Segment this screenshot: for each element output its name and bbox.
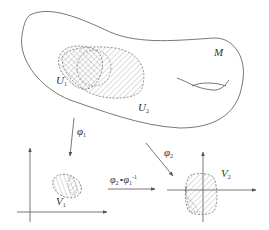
transition-inverse-sup: -1: [132, 174, 137, 180]
label-v2: V2: [221, 168, 231, 180]
label-phi2: φ2: [164, 147, 173, 159]
label-u1-base: U: [56, 74, 64, 86]
label-phi1: φ1: [77, 126, 86, 138]
label-u2-sub: 2: [146, 108, 149, 114]
label-v2-sub: 2: [228, 174, 231, 180]
label-v1: V1: [56, 196, 66, 208]
label-v2-base: V: [221, 167, 228, 179]
label-u2-base: U: [138, 101, 146, 113]
manifold-hole-lower: [192, 83, 226, 86]
label-phi2-sub: 2: [170, 153, 173, 159]
arrow-phi1: [70, 118, 74, 156]
region-v1: [49, 170, 85, 203]
label-u1: U1: [56, 75, 67, 87]
label-transition-map: φ2∘φ1-1: [110, 174, 137, 186]
label-v1-base: V: [56, 195, 63, 207]
label-u2: U2: [138, 102, 149, 114]
transition-phi1-sub: 1: [129, 180, 132, 186]
label-phi1-sub: 1: [83, 132, 86, 138]
label-m: M: [214, 47, 223, 58]
manifold-chart-diagram: [0, 0, 269, 230]
label-m-text: M: [214, 46, 223, 58]
label-v1-sub: 1: [63, 202, 66, 208]
manifold-hole: [177, 78, 229, 90]
label-u1-sub: 1: [64, 81, 67, 87]
